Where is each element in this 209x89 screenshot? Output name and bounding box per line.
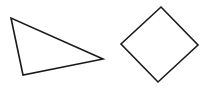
triangle-shape [11, 18, 103, 75]
square-shape [121, 7, 198, 82]
shapes-diagram [0, 0, 209, 89]
